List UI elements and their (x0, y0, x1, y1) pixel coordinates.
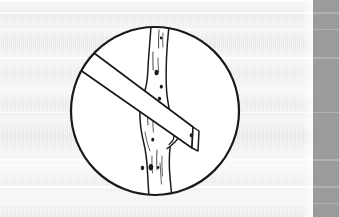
trunk-nail (158, 97, 161, 101)
board-nailed-to-tree-illustration (0, 0, 339, 217)
board-end-cap (192, 127, 199, 151)
bark-knot-7 (141, 166, 144, 170)
bark-knot-6 (157, 166, 159, 169)
screenshot-root (0, 0, 339, 217)
bark-knot-2 (160, 36, 162, 39)
